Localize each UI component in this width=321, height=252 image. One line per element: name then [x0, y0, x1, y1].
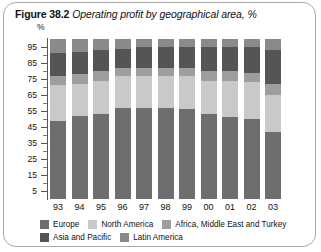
y-tick-major	[41, 127, 47, 128]
bar-segment	[222, 71, 238, 81]
bar-segment	[72, 84, 88, 116]
bar-segment	[50, 39, 66, 53]
bar-segment	[158, 47, 174, 68]
legend-label: Latin America	[133, 233, 183, 242]
bar-segment	[115, 49, 131, 68]
bar-segment	[158, 39, 174, 47]
x-axis-label: 94	[69, 202, 91, 212]
legend-item: North America	[88, 220, 153, 229]
bar-segment	[50, 76, 66, 86]
y-axis-unit-label: %	[37, 22, 45, 32]
stacked-bar	[115, 39, 131, 199]
y-tick-label: 65	[9, 91, 37, 99]
y-tick-minor	[43, 87, 47, 88]
bar-segment	[201, 39, 217, 47]
bar-segment	[136, 76, 152, 108]
bar-segment	[201, 71, 217, 81]
bar-segment	[115, 108, 131, 199]
y-tick-major	[41, 191, 47, 192]
stacked-bar	[244, 39, 260, 199]
bar-segment	[93, 114, 109, 199]
y-tick-label: 85	[9, 59, 37, 67]
bar-segment	[179, 47, 195, 68]
stacked-bar	[179, 39, 195, 199]
bar-segment	[265, 84, 281, 95]
bar-segment	[244, 47, 260, 73]
stacked-bar	[158, 39, 174, 199]
legend-row-1: EuropeNorth AmericaAfrica, Middle East a…	[40, 218, 315, 231]
bar-segment	[93, 81, 109, 115]
bar-segment	[265, 50, 281, 84]
bar-segment	[222, 81, 238, 118]
bar-segment	[244, 119, 260, 199]
stacked-bar	[72, 39, 88, 199]
chart-plot-area: % 9585756555453525155 939495969798990001…	[4, 3, 317, 248]
chart-legend: EuropeNorth AmericaAfrica, Middle East a…	[40, 218, 315, 244]
bar-segment	[244, 82, 260, 119]
y-tick-label: 75	[9, 75, 37, 83]
y-tick-minor	[43, 151, 47, 152]
y-axis-line	[47, 38, 48, 200]
x-axis-label: 93	[47, 202, 69, 212]
y-tick-major	[41, 111, 47, 112]
bar-segment	[72, 52, 88, 74]
bar-segment	[222, 39, 238, 47]
bar-segment	[93, 39, 109, 50]
x-axis-label: 96	[112, 202, 134, 212]
y-tick-minor	[43, 103, 47, 104]
y-tick-label: 45	[9, 123, 37, 131]
stacked-bar	[201, 39, 217, 199]
bar-segment	[201, 47, 217, 71]
y-tick-major	[41, 143, 47, 144]
bar-segment	[158, 108, 174, 199]
y-tick-label: 95	[9, 43, 37, 51]
bar-segment	[93, 50, 109, 71]
bar-segment	[179, 68, 195, 76]
y-tick-major	[41, 47, 47, 48]
legend-swatch-icon	[120, 233, 129, 242]
bar-segment	[72, 39, 88, 52]
legend-item: Africa, Middle East and Turkey	[162, 220, 286, 229]
stacked-bar	[265, 39, 281, 199]
y-tick-minor	[43, 55, 47, 56]
stacked-bar	[50, 39, 66, 199]
bar-segment	[265, 39, 281, 50]
x-axis-label: 95	[90, 202, 112, 212]
bar-segment	[115, 39, 131, 49]
y-tick-minor	[43, 167, 47, 168]
bar-segment	[50, 121, 66, 199]
bar-segment	[201, 114, 217, 199]
bar-segment	[179, 39, 195, 47]
x-axis-label: 01	[219, 202, 241, 212]
bar-segment	[115, 76, 131, 108]
y-tick-label: 35	[9, 139, 37, 147]
y-tick-minor	[43, 135, 47, 136]
bar-segment	[136, 47, 152, 68]
figure-card: Figure 38.2 Operating profit by geograph…	[3, 2, 316, 247]
legend-item: Latin America	[120, 233, 183, 242]
legend-label: Europe	[53, 220, 79, 229]
bar-segment	[244, 39, 260, 47]
x-axis-label: 98	[155, 202, 177, 212]
legend-label: Asia and Pacific	[53, 233, 111, 242]
y-tick-major	[41, 63, 47, 64]
legend-row-2: Asia and PacificLatin America	[40, 231, 315, 244]
legend-swatch-icon	[40, 220, 49, 229]
legend-label: North America	[101, 220, 153, 229]
y-tick-label: 5	[9, 187, 37, 195]
bar-segment	[158, 76, 174, 108]
y-tick-label: 25	[9, 155, 37, 163]
legend-label: Africa, Middle East and Turkey	[175, 220, 286, 229]
bar-segment	[158, 68, 174, 76]
stacked-bar	[93, 39, 109, 199]
y-tick-label: 15	[9, 171, 37, 179]
y-tick-major	[41, 79, 47, 80]
bar-segment	[136, 68, 152, 76]
stacked-bar	[222, 39, 238, 199]
bar-segment	[201, 81, 217, 115]
y-tick-minor	[43, 183, 47, 184]
legend-item: Europe	[40, 220, 79, 229]
x-axis-label: 00	[198, 202, 220, 212]
bar-segment	[222, 117, 238, 199]
bar-segment	[244, 73, 260, 83]
